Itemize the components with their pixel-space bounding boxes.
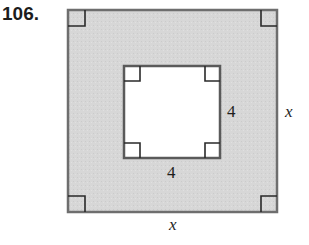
outer-right-side-label: x <box>284 102 293 121</box>
outer-bottom-side-label: x <box>168 215 177 234</box>
square-frame-diagram: 4 4 x x <box>0 0 309 245</box>
inner-right-side-label: 4 <box>227 102 236 121</box>
inner-bottom-side-label: 4 <box>167 163 176 182</box>
